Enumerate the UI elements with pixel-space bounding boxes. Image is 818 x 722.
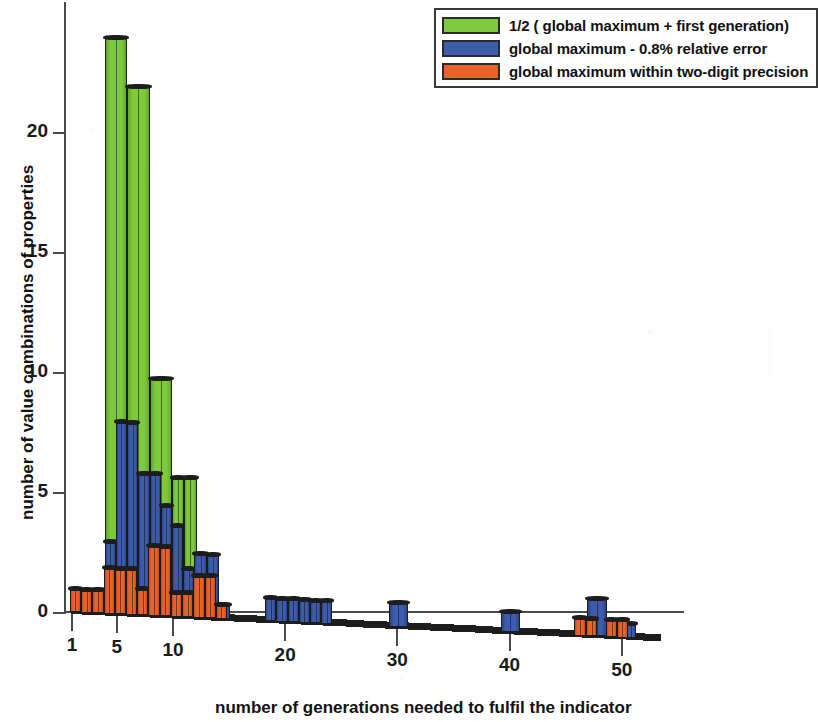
legend-label-blue: global maximum - 0.8% relative error [509,40,767,57]
bar-seam [75,590,76,611]
bar-seam [120,570,121,614]
legend-item: global maximum within two-digit precisio… [442,61,808,81]
histogram-bar [137,589,148,615]
bar-seam [165,548,166,616]
legend-item: global maximum - 0.8% relative error [442,38,808,58]
bar-seam [199,577,200,617]
histogram-bar [70,589,81,612]
legend: 1/2 ( global maximum + first generation)… [434,8,818,88]
y-tick [53,252,65,254]
histogram-bar [205,576,216,618]
y-tick [53,612,65,614]
bar-seam [221,606,222,618]
bar-seam [316,602,317,623]
bar-seam [398,604,399,626]
bar-top-edge [499,609,522,614]
bar-seam [109,569,110,613]
histogram-bar [265,598,276,621]
bar-seam [510,613,511,631]
bar-seam [327,602,328,623]
bar-seam [293,600,294,621]
x-axis-title: number of generations needed to fulfil t… [215,698,632,718]
y-tick-label: 0 [8,600,48,622]
y-axis-title: number of value combinations of properti… [18,165,38,520]
bar-seam [580,619,581,634]
bar-seam [154,547,155,615]
bar-top-edge [148,471,163,476]
histogram-bar [160,547,171,617]
legend-item: 1/2 ( global maximum + first generation) [442,15,808,35]
bar-top-edge [182,475,198,480]
bar-seam [210,577,211,617]
histogram-bar [171,593,182,617]
histogram-bar [81,590,92,613]
bar-top-edge [319,598,334,603]
bar-seam [304,601,305,622]
histogram-bar [606,620,617,637]
y-tick [53,372,65,374]
x-tick-label: 50 [601,659,643,681]
bar-top-edge [148,376,174,381]
bar-seam [87,591,88,612]
histogram-bar [574,618,586,635]
bar-top-edge [124,566,139,571]
histogram-bar [389,603,408,627]
bar-seam [188,594,189,616]
histogram-bar [92,590,103,613]
bar-seam [282,600,283,621]
x-tick-label: 10 [152,639,194,661]
bar-seam [132,570,133,614]
histogram-bar [501,612,520,632]
bar-top-edge [125,420,140,425]
bar-top-edge [214,602,229,607]
bar-top-edge [387,600,410,605]
histogram-bar [288,599,299,622]
bar-top-edge [584,616,599,621]
y-tick [53,132,65,134]
x-tick [71,614,73,631]
bar-top-edge [170,523,185,528]
bar-top-edge [615,617,629,622]
x-tick [172,619,174,636]
legend-swatch-blue [442,40,500,57]
histogram-bar [321,601,332,624]
histogram-bar [299,600,310,623]
bar-seam [612,621,613,636]
histogram-bar [310,601,321,624]
x-tick-label: 20 [264,644,306,666]
bar-seam [622,621,623,636]
histogram-bar [104,568,115,614]
bar-seam [98,591,99,612]
bar-top-edge [159,503,174,508]
bar-seam [271,599,272,620]
histogram-bar [586,619,597,636]
x-tick [116,616,118,633]
x-tick-label: 40 [489,654,531,676]
legend-swatch-orange [442,63,500,80]
x-tick-label: 1 [51,634,93,656]
legend-label-green: 1/2 ( global maximum + first generation) [509,17,789,34]
histogram-bar [216,605,227,619]
bar-top-edge [125,84,151,89]
bar-top-edge [103,35,129,40]
x-tick-label: 30 [376,649,418,671]
x-tick [509,634,511,651]
histogram-bar [115,569,126,615]
x-tick-label: 5 [96,636,138,658]
histogram-bar [617,620,627,637]
y-tick [53,492,65,494]
bar-seam [631,625,632,637]
x-tick [284,624,286,641]
baseline-segment [654,634,661,641]
x-tick [621,639,623,656]
histogram-bar [193,576,204,618]
histogram-bar [148,546,159,616]
bar-top-edge [585,596,609,601]
bar-top-edge [205,552,221,557]
y-axis-line [64,2,66,614]
bar-seam [592,620,593,635]
histogram-bar [126,569,137,615]
x-tick [396,629,398,646]
bar-top-edge [158,544,173,549]
